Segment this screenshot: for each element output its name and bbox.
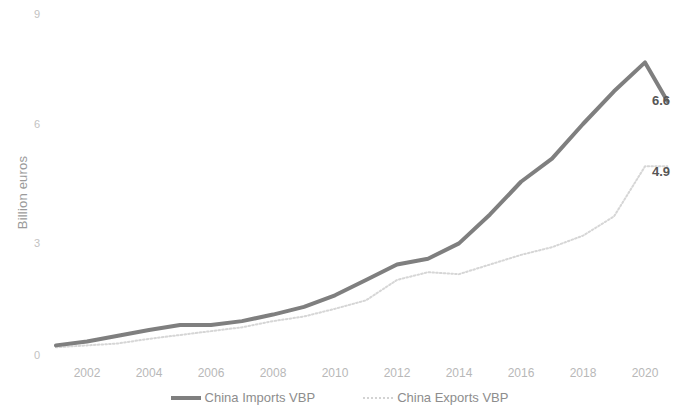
legend-line-icon-imports — [171, 392, 201, 404]
legend-item-china-imports-vbp[interactable]: China Imports VBP — [171, 391, 316, 405]
legend-item-china-exports-vbp[interactable]: China Exports VBP — [363, 391, 508, 405]
legend-label-exports: China Exports VBP — [397, 391, 508, 405]
chart-legend: China Imports VBP China Exports VBP — [0, 391, 679, 405]
line-chart: Billion euros 9 6 3 0 2002 2004 2006 200… — [0, 0, 679, 412]
data-label-exports-end: 4.9 — [652, 165, 670, 179]
series-line-china-exports-vbp — [56, 166, 667, 347]
legend-label-imports: China Imports VBP — [205, 391, 316, 405]
plot-area — [0, 0, 679, 412]
legend-line-icon-exports — [363, 392, 393, 404]
data-label-imports-end: 6.6 — [652, 94, 670, 108]
series-line-china-imports-vbp — [56, 62, 667, 345]
